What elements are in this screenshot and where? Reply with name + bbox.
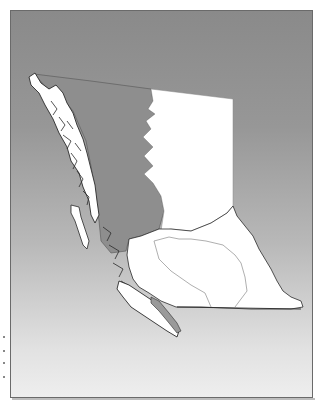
edge-mark: [3, 350, 5, 352]
edge-mark: [3, 336, 5, 338]
bc-map: [11, 11, 313, 398]
edge-mark: [3, 362, 5, 364]
map-frame: [10, 10, 313, 398]
edge-mark: [3, 376, 5, 378]
frame-shadow: [12, 398, 315, 400]
haida-gwaii[interactable]: [71, 205, 89, 249]
